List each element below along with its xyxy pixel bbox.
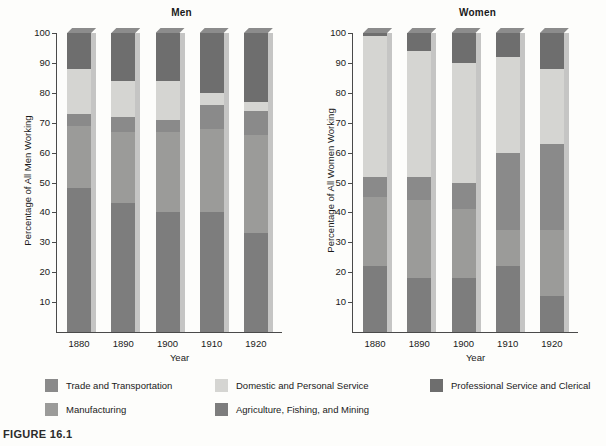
- bar-segment-women-1900-4: [452, 33, 476, 63]
- legend-swatch-icon: [45, 403, 58, 416]
- bar-segment-shadow: [180, 81, 185, 120]
- bar-men-1890: [111, 33, 135, 332]
- bar-segment-women-1900-0: [452, 278, 476, 332]
- x-tick-label-women-1890: 1890: [409, 338, 430, 349]
- bar-women-1920: [540, 33, 564, 332]
- bar-segment-shadow: [520, 57, 525, 153]
- legend-label: Trade and Transportation: [66, 380, 172, 391]
- bar-segment-shadow: [431, 33, 436, 51]
- bar-segment-women-1920-2: [540, 144, 564, 231]
- bar-segment-men-1890-1: [111, 132, 135, 204]
- bar-segment-men-1920-2: [244, 111, 268, 135]
- y-tick-women-90: [348, 63, 353, 64]
- y-tick-label-men-20: 20: [39, 267, 50, 277]
- bar-segment-women-1880-1: [363, 197, 387, 266]
- y-tick-label-women-60: 60: [335, 148, 346, 158]
- bar-segment-shadow: [431, 177, 436, 201]
- x-tick-label-women-1910: 1910: [497, 338, 518, 349]
- chart-panel-men: Men Percentage of All Men Working 102030…: [0, 0, 303, 372]
- bar-segment-shadow: [431, 51, 436, 177]
- bar-segment-shadow: [268, 102, 273, 111]
- x-axis-line-women: [352, 332, 578, 333]
- bar-segment-women-1880-3: [363, 36, 387, 177]
- x-tick-label-men-1890: 1890: [113, 338, 134, 349]
- bar-segment-women-1890-1: [407, 200, 431, 278]
- bar-segment-shadow: [520, 33, 525, 57]
- legend-item: Domestic and Personal Service: [215, 379, 369, 392]
- y-tick-label-men-90: 90: [39, 58, 50, 68]
- plot-area-women: 1020304050607080901001880189019001910192…: [353, 33, 574, 332]
- bar-segment-women-1900-1: [452, 209, 476, 278]
- bar-segment-men-1910-4: [200, 33, 224, 93]
- y-tick-label-men-10: 10: [39, 297, 50, 307]
- bar-top-face: [156, 28, 185, 33]
- y-tick-women-50: [348, 183, 353, 184]
- bar-segment-shadow: [431, 278, 436, 332]
- y-tick-label-men-70: 70: [39, 118, 50, 128]
- bar-segment-women-1880-2: [363, 177, 387, 198]
- bar-men-1880: [67, 33, 91, 332]
- bar-segment-women-1900-2: [452, 183, 476, 210]
- legend-swatch-icon: [430, 379, 443, 392]
- x-tick-label-men-1920: 1920: [245, 338, 266, 349]
- bar-top-face: [363, 28, 392, 33]
- y-tick-men-90: [52, 63, 57, 64]
- bar-segment-men-1900-2: [156, 120, 180, 132]
- x-tick-label-women-1920: 1920: [541, 338, 562, 349]
- y-tick-women-80: [348, 93, 353, 94]
- bar-segment-men-1910-1: [200, 129, 224, 213]
- bar-segment-men-1890-4: [111, 33, 135, 81]
- chart-title-women: Women: [300, 7, 606, 18]
- bar-segment-shadow: [135, 33, 140, 81]
- bar-segment-shadow: [268, 233, 273, 332]
- bar-men-1920: [244, 33, 268, 332]
- chart-legend: Trade and TransportationDomestic and Per…: [0, 379, 606, 424]
- bar-segment-women-1900-3: [452, 63, 476, 183]
- bar-segment-shadow: [180, 132, 185, 213]
- x-axis-label-men: Year: [0, 352, 331, 363]
- bar-women-1900: [452, 33, 476, 332]
- bar-segment-shadow: [180, 33, 185, 81]
- y-tick-men-70: [52, 123, 57, 124]
- y-tick-men-40: [52, 212, 57, 213]
- bar-top-face: [67, 28, 96, 33]
- chart-panel-women: Women Percentage of All Women Working 10…: [300, 0, 603, 372]
- bar-segment-shadow: [91, 114, 96, 126]
- bar-segment-women-1920-0: [540, 296, 564, 332]
- x-axis-line-men: [56, 332, 282, 333]
- y-tick-label-women-20: 20: [335, 267, 346, 277]
- bar-top-face: [452, 28, 481, 33]
- bar-segment-men-1920-1: [244, 135, 268, 234]
- bar-segment-women-1890-3: [407, 51, 431, 177]
- y-tick-women-30: [348, 242, 353, 243]
- bar-segment-shadow: [431, 200, 436, 278]
- bar-segment-men-1920-0: [244, 233, 268, 332]
- bar-segment-shadow: [224, 212, 229, 332]
- bar-top-face: [540, 28, 569, 33]
- y-tick-label-women-40: 40: [335, 208, 346, 218]
- bar-segment-shadow: [180, 212, 185, 332]
- bar-top-face: [407, 28, 436, 33]
- bar-segment-men-1880-3: [67, 69, 91, 114]
- bar-women-1910: [496, 33, 520, 332]
- bar-segment-shadow: [476, 278, 481, 332]
- bar-segment-shadow: [387, 266, 392, 332]
- bar-segment-shadow: [564, 296, 569, 332]
- bar-segment-women-1920-1: [540, 230, 564, 296]
- bar-segment-shadow: [91, 188, 96, 332]
- plot-area-men: 1020304050607080901001880189019001910192…: [57, 33, 278, 332]
- bar-segment-men-1880-2: [67, 114, 91, 126]
- y-tick-men-80: [52, 93, 57, 94]
- y-tick-men-20: [52, 272, 57, 273]
- bar-segment-shadow: [387, 33, 392, 36]
- bar-top-face: [496, 28, 525, 33]
- bar-segment-shadow: [387, 177, 392, 198]
- bar-segment-men-1880-1: [67, 126, 91, 189]
- y-tick-label-women-50: 50: [335, 178, 346, 188]
- bar-segment-men-1890-3: [111, 81, 135, 117]
- x-tick-label-women-1900: 1900: [453, 338, 474, 349]
- y-tick-label-women-80: 80: [335, 88, 346, 98]
- bar-segment-men-1890-0: [111, 203, 135, 332]
- y-tick-label-women-30: 30: [335, 238, 346, 248]
- x-tick-label-women-1880: 1880: [365, 338, 386, 349]
